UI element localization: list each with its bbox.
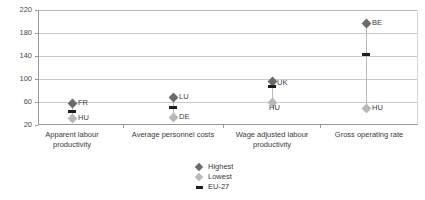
- x-tick-mark-3: [320, 125, 321, 128]
- legend-label-eu27: EU-27: [208, 182, 229, 191]
- marker-eu27[interactable]: [169, 106, 177, 109]
- legend-label-lowest: Lowest: [208, 172, 232, 181]
- x-category-label-3-line1: Gross operating rate: [319, 130, 419, 140]
- y-tick-label-60: 60: [0, 98, 32, 106]
- marker-eu27[interactable]: [268, 85, 276, 88]
- chart-container: 220 180 140 100 60 20 FR HU LU DE UK HU: [0, 0, 425, 200]
- legend-item-lowest[interactable]: Lowest: [196, 172, 233, 182]
- marker-eu27[interactable]: [362, 53, 370, 56]
- x-category-label-2-line1: Wage adjusted labour: [222, 130, 322, 140]
- x-category-label-2: Wage adjusted labour productivity: [222, 130, 322, 149]
- y-tick-label-220: 220: [0, 6, 32, 14]
- x-category-label-1-line1: Average personnel costs: [123, 130, 223, 140]
- x-category-label-2-line2: productivity: [222, 140, 322, 150]
- y-tick-label-20: 20: [0, 121, 32, 129]
- point-label-lowest: HU: [269, 104, 280, 112]
- point-label-highest: FR: [78, 99, 88, 107]
- point-label-highest: LU: [179, 93, 189, 101]
- point-label-lowest: DE: [179, 113, 189, 121]
- x-category-label-3: Gross operating rate: [319, 130, 419, 140]
- dash-eu27-icon: [196, 186, 203, 189]
- diamond-lowest-icon: [195, 173, 203, 181]
- x-category-label-0-line1: Apparent labour: [22, 130, 122, 140]
- legend-item-eu27[interactable]: EU-27: [196, 182, 233, 192]
- diamond-highest-icon: [195, 163, 203, 171]
- y-tick-label-140: 140: [0, 52, 32, 60]
- point-label-highest: UK: [277, 79, 287, 87]
- legend-item-highest[interactable]: Highest: [196, 162, 233, 172]
- x-category-label-0-line2: productivity: [22, 140, 122, 150]
- point-label-lowest: HU: [372, 104, 383, 112]
- point-label-highest: BE: [372, 19, 382, 27]
- range-connector: [366, 23, 367, 108]
- x-category-label-0: Apparent labour productivity: [22, 130, 122, 149]
- x-category-label-1: Average personnel costs: [123, 130, 223, 140]
- chart-legend: Highest Lowest EU-27: [196, 162, 233, 192]
- point-label-lowest: HU: [78, 114, 89, 122]
- y-tick-mark-20: [35, 125, 38, 126]
- y-tick-label-180: 180: [0, 29, 32, 37]
- legend-label-highest: Highest: [208, 162, 233, 171]
- x-tick-mark-2: [223, 125, 224, 128]
- x-tick-mark-1: [123, 125, 124, 128]
- y-tick-label-100: 100: [0, 75, 32, 83]
